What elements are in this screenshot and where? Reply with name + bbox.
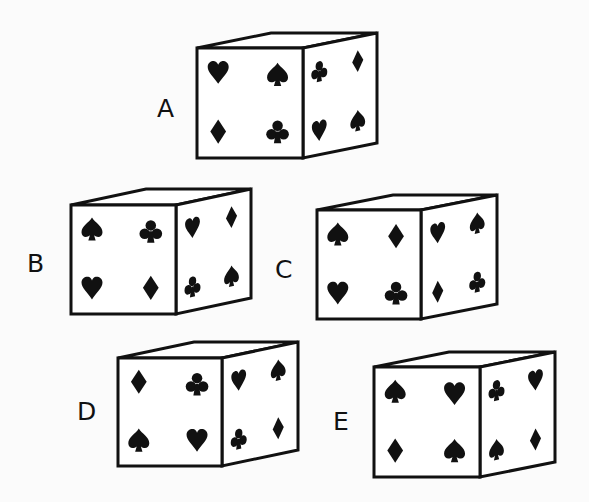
cubes-drawing (0, 0, 589, 502)
cube-label-b: B (27, 251, 44, 276)
cube-side-face (222, 342, 298, 466)
cube-label-e: E (333, 409, 349, 434)
cube-option-c (317, 195, 497, 319)
cube-side-face (480, 352, 555, 477)
cube-front-face (71, 205, 176, 314)
cube-label-c: C (275, 257, 292, 282)
cube-side-face (176, 189, 251, 314)
cube-option-e (374, 352, 555, 477)
cube-front-face (374, 367, 480, 477)
cube-option-a (197, 33, 377, 158)
cube-label-d: D (77, 399, 96, 424)
cube-side-face (421, 195, 497, 319)
cube-label-a: A (157, 96, 174, 121)
cube-option-b (71, 189, 251, 314)
cube-front-face (118, 358, 222, 466)
cube-option-d (118, 342, 298, 466)
cube-front-face (317, 210, 421, 319)
cube-puzzle-figure: ABCDE (0, 0, 589, 502)
cube-side-face (303, 33, 377, 158)
